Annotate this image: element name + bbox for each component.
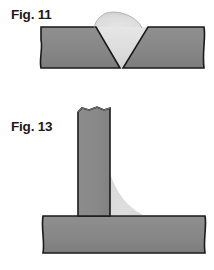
figure-label-fig-11: Fig. 11: [11, 8, 52, 22]
fig13-base-plate: [42, 216, 205, 253]
fig13-fillet-weld: [110, 173, 143, 215]
figure-fig-13: [0, 0, 214, 270]
illustration-sheet: Fig. 11 Fig. 13: [0, 0, 214, 270]
fig13-web-plate: [78, 107, 110, 216]
figure-label-fig-13: Fig. 13: [11, 120, 52, 134]
